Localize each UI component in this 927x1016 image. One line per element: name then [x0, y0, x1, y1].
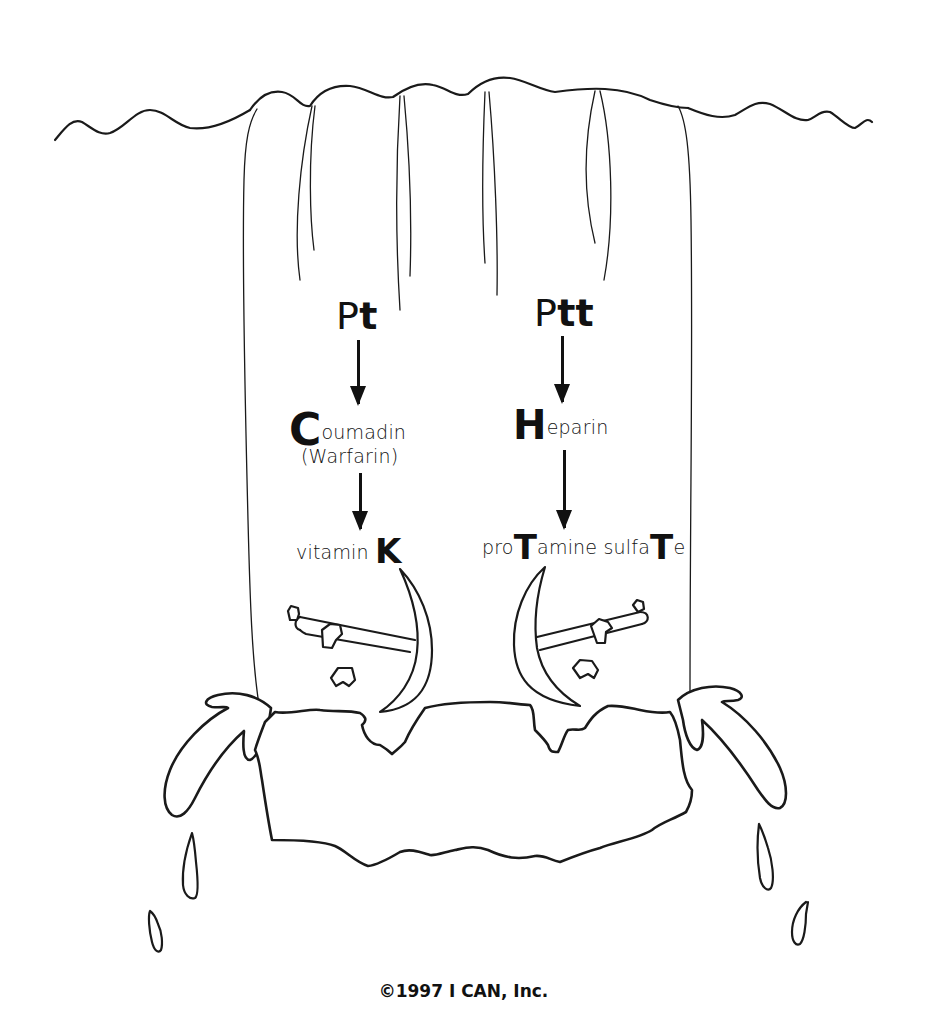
waterfall-right-edge [678, 106, 692, 700]
water-streak [586, 91, 595, 243]
water-streak [600, 91, 611, 280]
protamine-part1: pro [482, 536, 514, 558]
ptt-prefix: P [534, 291, 557, 335]
arrow-down-icon [359, 473, 362, 529]
right-pickaxe-handle-end [640, 612, 648, 624]
arrow-down-icon [357, 340, 360, 404]
water-streak [397, 96, 400, 310]
rock-chip [573, 660, 598, 678]
coumadin-rest: oumadin [322, 421, 407, 443]
water-drop [183, 833, 198, 898]
pt-label: Pt [336, 297, 378, 335]
rock-chip [633, 600, 644, 612]
water-drop [792, 902, 808, 945]
heparin-label: Heparin [513, 405, 608, 445]
water-streak [310, 106, 315, 250]
left-water-splash [165, 693, 271, 816]
vitamin-text: vitamin [296, 541, 375, 563]
protamine-emphasis-2: T [650, 527, 673, 567]
rock-chip [322, 624, 342, 648]
arrow-down-icon [561, 336, 564, 402]
rock-ledge [255, 702, 692, 866]
water-streak [489, 92, 497, 295]
right-pickaxe-handle-top [537, 612, 640, 637]
heparin-initial: H [513, 402, 547, 448]
right-pickaxe-blade [514, 567, 580, 706]
waterfall-crest [250, 78, 688, 110]
copyright-notice: ©1997 I CAN, Inc. [0, 981, 927, 1001]
water-drop [758, 824, 773, 890]
warfarin-label: (Warfarin) [301, 447, 398, 466]
left-pickaxe-handle-bottom [300, 630, 410, 652]
ptt-label: Ptt [534, 294, 594, 332]
rock-chip [591, 619, 612, 643]
right-riverbank-line [688, 103, 872, 128]
vitamin-k-emphasis: K [375, 531, 402, 571]
rock-chip [288, 606, 299, 620]
protamine-part2: amine sulfa [537, 536, 650, 558]
arrow-down-icon [563, 450, 566, 528]
water-drop [149, 911, 162, 952]
left-pickaxe-blade [380, 569, 432, 712]
protamine-emphasis-1: T [514, 527, 537, 567]
ptt-emphasis: tt [557, 291, 594, 335]
water-streak [483, 92, 485, 263]
waterfall-left-edge [243, 109, 259, 705]
protamine-part3: e [673, 536, 685, 558]
water-streak [404, 96, 411, 276]
heparin-rest: eparin [547, 416, 609, 438]
right-water-splash [678, 687, 786, 809]
pt-prefix: P [336, 294, 359, 338]
waterfall-illustration [0, 0, 927, 1016]
rock-chip [331, 668, 355, 686]
left-riverbank-line [55, 110, 250, 140]
pt-emphasis: t [359, 294, 377, 338]
protamine-sulfate-label: proTamine sulfaTe [482, 530, 685, 564]
vitamin-k-label: vitamin K [296, 534, 402, 568]
